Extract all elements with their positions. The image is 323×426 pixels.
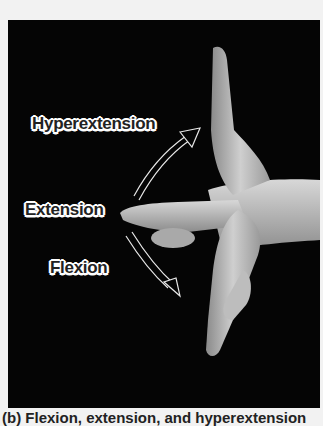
hyperextension-label: Hyperextension (32, 114, 155, 134)
hyperextended-hand (211, 47, 270, 195)
figure-photo-panel: Hyperextension Extension Flexion (8, 20, 320, 408)
figure-caption: (b) Flexion, extension, and hyperextensi… (2, 409, 306, 426)
flexed-hand (206, 210, 260, 356)
flexion-label: Flexion (50, 258, 107, 278)
hyperextension-arrow (134, 128, 200, 200)
extension-label: Extension (25, 200, 104, 220)
